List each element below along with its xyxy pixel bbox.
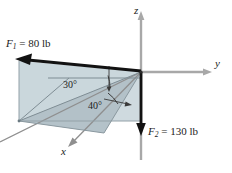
force-subscript-f2: 2 xyxy=(155,130,159,139)
force-subscript-f1: 1 xyxy=(13,42,17,51)
force-label-f1: F1 = 80 lb xyxy=(6,38,51,49)
figure-canvas xyxy=(0,0,232,173)
angle-label-40: 40° xyxy=(88,101,102,111)
force-value-f2: = 130 lb xyxy=(158,125,198,137)
axis-label-z: z xyxy=(134,5,138,16)
axis-label-x: x xyxy=(61,146,66,157)
origin-point xyxy=(139,70,142,73)
axis-label-y: y xyxy=(215,58,220,69)
axis-z-arrowhead xyxy=(138,11,145,20)
force-label-f2: F2 = 130 lb xyxy=(148,126,198,137)
force-value-f1: = 80 lb xyxy=(16,37,50,49)
axis-y-arrowhead xyxy=(203,69,212,76)
vector-f2-arrowhead xyxy=(136,123,146,136)
mechanics-figure: F1 = 80 lb F2 = 130 lb z y x 30° 40° xyxy=(0,0,232,173)
force-symbol-f2: F xyxy=(148,125,155,137)
corner-point-bottom-left xyxy=(18,120,21,123)
angle-label-30: 30° xyxy=(63,80,77,90)
force-symbol-f1: F xyxy=(6,37,13,49)
